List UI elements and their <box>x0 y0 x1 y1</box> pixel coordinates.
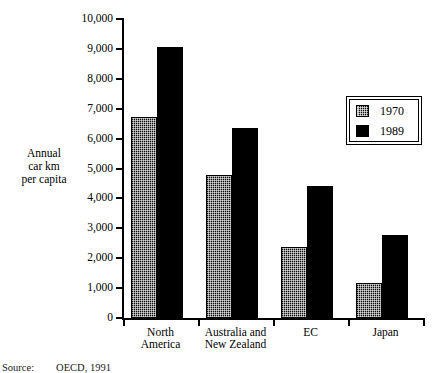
bar-1989-1 <box>232 128 258 318</box>
x-tick-mark <box>273 318 275 326</box>
bar-1989-3 <box>382 235 408 318</box>
x-category-label: North America <box>123 327 198 350</box>
y-tick-label: 10,000 <box>81 13 113 25</box>
bar-1970-2 <box>281 247 307 318</box>
source-note: Source:OECD, 1991 <box>2 362 111 373</box>
y-axis-title: Annual car km per capita <box>8 147 80 185</box>
plot-area: 01,0002,0003,0004,0005,0006,0007,0008,00… <box>123 19 423 318</box>
y-tick-label: 3,000 <box>87 223 113 235</box>
x-category-label: EC <box>273 327 348 339</box>
bar-chart: Annual car km per capita 01,0002,0003,00… <box>0 0 434 373</box>
bar-1989-0 <box>157 47 183 318</box>
y-tick-label: 2,000 <box>87 252 113 264</box>
legend-label-1989: 1989 <box>380 125 404 137</box>
y-tick-mark <box>116 168 124 170</box>
bar-1970-3 <box>356 283 382 318</box>
legend-label-1970: 1970 <box>380 105 404 117</box>
y-tick-mark <box>116 18 124 20</box>
y-tick-label: 8,000 <box>87 73 113 85</box>
y-tick-mark <box>116 287 124 289</box>
source-label: Source: <box>2 362 34 373</box>
legend-entry-1989: 1989 <box>356 124 404 138</box>
x-tick-mark <box>423 318 425 326</box>
x-tick-mark <box>198 318 200 326</box>
source-text: OECD, 1991 <box>56 362 111 373</box>
y-tick-mark <box>116 197 124 199</box>
y-tick-label: 5,000 <box>87 163 113 175</box>
y-tick-mark <box>116 48 124 50</box>
y-tick-mark <box>116 108 124 110</box>
chart-legend: 1970 1989 <box>346 96 422 145</box>
y-tick-mark <box>116 78 124 80</box>
legend-swatch-1989 <box>356 125 369 137</box>
y-tick-mark <box>116 257 124 259</box>
x-tick-mark <box>123 318 125 326</box>
bar-1989-2 <box>307 186 333 318</box>
x-tick-mark <box>348 318 350 326</box>
y-tick-mark <box>116 138 124 140</box>
x-category-label: Japan <box>348 327 423 339</box>
y-tick-label: 7,000 <box>87 103 113 115</box>
y-tick-label: 6,000 <box>87 133 113 145</box>
y-tick-mark <box>116 227 124 229</box>
y-tick-label: 9,000 <box>87 43 113 55</box>
bar-1970-1 <box>206 175 232 318</box>
bar-1970-0 <box>131 117 157 318</box>
x-category-label: Australia and New Zealand <box>198 327 273 350</box>
legend-swatch-1970 <box>356 105 369 117</box>
y-tick-label: 1,000 <box>87 282 113 294</box>
y-tick-label: 0 <box>107 312 113 324</box>
y-tick-label: 4,000 <box>87 193 113 205</box>
legend-entry-1970: 1970 <box>356 104 404 118</box>
